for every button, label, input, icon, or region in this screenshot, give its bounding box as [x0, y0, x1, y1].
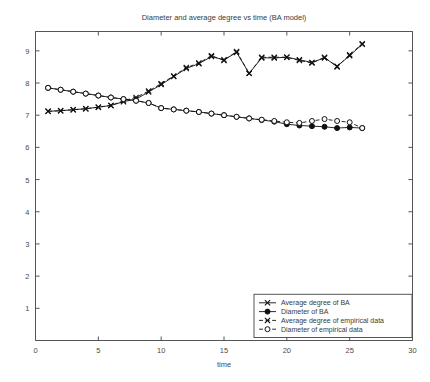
data-marker-circle-filled	[265, 309, 270, 314]
data-marker-circle-open	[247, 116, 252, 121]
data-marker-circle-open	[234, 114, 239, 119]
data-marker-circle-filled	[347, 125, 352, 130]
data-marker-circle-open	[309, 118, 314, 123]
y-tick-label: 9	[25, 47, 29, 56]
y-tick-label: 2	[25, 272, 29, 281]
data-marker-circle-open	[146, 100, 151, 105]
legend-label-2: Average degree of empirical data	[281, 317, 384, 325]
data-marker-circle-open	[159, 106, 164, 111]
data-marker-circle-open	[184, 108, 189, 113]
data-marker-circle-open	[272, 118, 277, 123]
data-marker-circle-filled	[335, 126, 340, 131]
series-0	[45, 42, 364, 114]
data-marker-circle-filled	[322, 124, 327, 129]
x-tick-label: 0	[33, 346, 37, 355]
data-marker-circle-open	[222, 113, 227, 118]
data-marker-circle-open	[171, 107, 176, 112]
x-tick-label: 15	[220, 346, 228, 355]
chart-canvas: Diameter and average degree vs time (BA …	[0, 0, 430, 382]
data-marker-circle-open	[96, 93, 101, 98]
series-line-2	[48, 44, 362, 112]
chart-title: Diameter and average degree vs time (BA …	[142, 13, 307, 22]
data-marker-circle-open	[347, 120, 352, 125]
legend-label-1: Diameter of BA	[281, 308, 329, 315]
data-marker-circle-open	[196, 109, 201, 114]
x-axis-label: time	[217, 360, 231, 369]
y-tick-label: 5	[25, 176, 29, 185]
x-tick-label: 25	[345, 346, 353, 355]
data-marker-circle-open	[46, 85, 51, 90]
y-tick-label: 6	[25, 143, 29, 152]
data-marker-circle-open	[284, 120, 289, 125]
data-marker-circle-open	[360, 126, 365, 131]
x-tick-label: 10	[157, 346, 165, 355]
data-marker-circle-open	[83, 91, 88, 96]
y-tick-label: 8	[25, 79, 29, 88]
data-marker-circle-open	[209, 111, 214, 116]
x-tick-label: 30	[408, 346, 416, 355]
y-tick-label: 1	[25, 304, 29, 313]
data-marker-circle-open	[265, 327, 270, 332]
x-tick-label: 20	[283, 346, 291, 355]
series-2	[45, 41, 364, 114]
data-marker-circle-open	[134, 98, 139, 103]
y-tick-label: 3	[25, 240, 29, 249]
data-marker-circle-open	[108, 95, 113, 100]
series-line-0	[48, 44, 362, 111]
data-marker-circle-open	[335, 118, 340, 123]
legend-label-0: Average degree of BA	[281, 299, 350, 307]
data-marker-circle-filled	[309, 124, 314, 129]
data-marker-circle-open	[297, 120, 302, 125]
data-marker-circle-open	[121, 97, 126, 102]
x-tick-label: 5	[96, 346, 100, 355]
data-marker-circle-open	[259, 117, 264, 122]
y-tick-label: 4	[25, 208, 29, 217]
data-marker-circle-open	[58, 87, 63, 92]
data-marker-circle-open	[322, 117, 327, 122]
legend-label-3: Diameter of empirical data	[281, 326, 363, 334]
data-marker-circle-open	[71, 89, 76, 94]
chart-figure: Diameter and average degree vs time (BA …	[0, 0, 430, 382]
y-tick-label: 7	[25, 111, 29, 120]
